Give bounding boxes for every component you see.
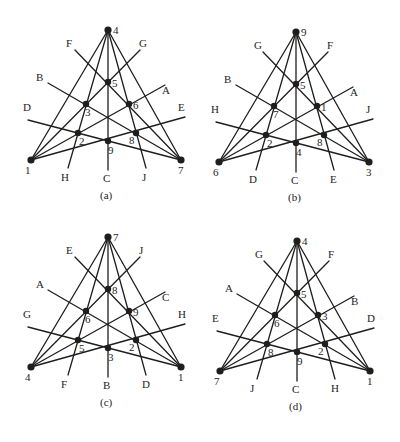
point-4: [27, 363, 34, 370]
point-5: [105, 79, 111, 85]
panel-d: 456389271GFABEDJCH(d): [212, 235, 375, 413]
line-label: C: [162, 291, 169, 303]
point-label: 6: [274, 317, 280, 329]
point-label: 9: [297, 355, 303, 367]
panel-c: 786953241EJACGHFBD(c): [23, 231, 186, 409]
point-label: 4: [296, 146, 302, 158]
point-1: [366, 367, 373, 374]
point-label: 1: [25, 164, 31, 176]
line-label: C: [103, 172, 110, 184]
line-label: D: [142, 378, 150, 390]
point-3: [365, 158, 372, 165]
point-label: 7: [178, 164, 184, 176]
point-6: [215, 158, 222, 165]
point-label: 4: [113, 24, 119, 36]
point-label: 7: [214, 375, 220, 387]
line-label: F: [61, 378, 67, 390]
line-label: D: [367, 312, 375, 324]
line-label: A: [36, 278, 44, 290]
point-label: 9: [108, 144, 114, 156]
line-label: C: [291, 174, 298, 186]
line-label: D: [23, 101, 31, 113]
point-5: [293, 81, 299, 87]
point-label: 6: [133, 99, 139, 111]
point-label: 3: [366, 166, 372, 178]
line-segment: [68, 30, 108, 168]
point-9: [126, 308, 132, 314]
point-label: 8: [129, 134, 135, 146]
line-label: A: [225, 282, 233, 294]
line-label: J: [366, 103, 371, 115]
point-label: 5: [112, 77, 118, 89]
line-label: H: [61, 171, 69, 183]
line-label: F: [328, 248, 334, 260]
point-label: 5: [300, 79, 306, 91]
point-label: 6: [85, 313, 91, 325]
line-label: B: [103, 379, 110, 391]
point-label: 2: [318, 345, 324, 357]
line-label: C: [292, 383, 299, 395]
line-label: J: [250, 382, 255, 394]
point-7: [177, 156, 184, 163]
panel-caption: (a): [100, 189, 113, 202]
line-label: F: [327, 39, 333, 51]
panel-b: 957124863GFBAHJDCE(b): [211, 26, 373, 204]
point-label: 8: [317, 136, 323, 148]
panel-a: 453629817FGBADEHCJ(a): [23, 24, 185, 202]
point-7: [104, 233, 111, 240]
point-1: [177, 363, 184, 370]
point-label: 1: [178, 371, 184, 383]
point-label: 5: [301, 288, 307, 300]
point-label: 4: [25, 371, 31, 383]
point-4: [104, 26, 111, 33]
point-5: [294, 290, 300, 296]
line-label: A: [350, 86, 358, 98]
line-label: J: [142, 171, 147, 183]
line-segment: [256, 32, 296, 170]
point-label: 3: [85, 106, 91, 118]
line-label: E: [66, 244, 73, 256]
point-label: 4: [302, 235, 308, 247]
point-label: 3: [322, 310, 328, 322]
point-8: [105, 286, 111, 292]
point-7: [216, 367, 223, 374]
line-label: G: [23, 308, 31, 320]
point-label: 1: [367, 375, 373, 387]
point-6: [126, 101, 132, 107]
line-segment: [68, 237, 108, 375]
line-label: H: [211, 103, 219, 115]
line-label: G: [254, 39, 262, 51]
point-label: 7: [273, 108, 279, 120]
point-1: [314, 103, 320, 109]
point-label: 8: [112, 284, 118, 296]
line-label: B: [351, 295, 358, 307]
point-label: 2: [79, 135, 85, 147]
line-label: A: [162, 84, 170, 96]
line-label: B: [36, 71, 43, 83]
figure-four-panel-line-configurations: 453629817FGBADEHCJ(a)957124863GFBAHJDCE(…: [0, 0, 400, 442]
point-label: 6: [213, 166, 219, 178]
panel-caption: (c): [100, 396, 113, 409]
point-label: 1: [321, 101, 327, 113]
line-label: F: [66, 37, 72, 49]
line-label: H: [178, 308, 186, 320]
point-label: 9: [133, 306, 139, 318]
point-label: 7: [113, 231, 119, 243]
point-label: 3: [108, 351, 114, 363]
line-label: D: [249, 173, 257, 185]
line-label: E: [178, 101, 185, 113]
line-label: G: [139, 37, 147, 49]
line-label: J: [139, 244, 144, 256]
line-label: H: [331, 382, 339, 394]
point-label: 2: [267, 137, 273, 149]
line-segment: [257, 241, 297, 379]
point-1: [27, 156, 34, 163]
point-9: [292, 28, 299, 35]
point-label: 8: [268, 346, 274, 358]
line-label: B: [224, 73, 231, 85]
point-label: 2: [129, 341, 135, 353]
line-label: E: [330, 173, 337, 185]
point-4: [293, 237, 300, 244]
point-label: 9: [301, 26, 307, 38]
point-label: 5: [79, 342, 85, 354]
